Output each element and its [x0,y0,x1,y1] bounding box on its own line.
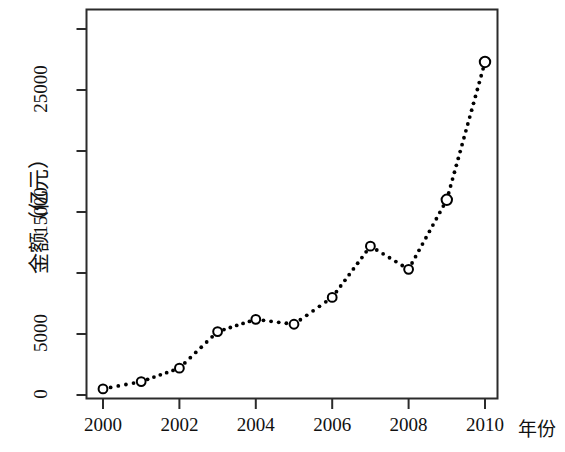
marker-circle [137,377,146,386]
marker-circle [175,364,184,373]
line-dot [305,313,309,317]
y-tick-label-15000: 15000 [30,181,52,241]
data-point-2008 [404,265,413,274]
data-point-2006 [328,293,337,302]
line-dot [428,230,432,234]
line-dot [388,256,392,260]
line-dot [347,273,351,277]
line-dot [132,381,136,385]
line-dot [400,264,404,268]
marker-circle [366,242,375,251]
data-point-2001 [137,377,146,386]
line-dot [298,318,302,322]
line-dot [199,345,203,349]
line-dot [453,170,457,174]
line-dot [165,371,169,375]
data-point-2010 [480,57,490,67]
line-dot [474,95,478,99]
marker-circle [99,385,108,394]
y-tick-label-5000: 5000 [30,303,52,363]
line-dot [109,386,113,390]
data-point-2009 [442,195,452,205]
x-tick-label-2010: 2010 [450,414,520,436]
data-point-2004 [251,315,260,324]
line-dot [472,101,476,105]
line-dot [414,255,418,259]
marker-circle [442,195,452,205]
line-dot [431,223,435,227]
marker-circle [251,315,260,324]
line-dot [116,384,120,388]
line-dot [269,319,273,323]
line-dot [477,81,481,85]
line-dot [464,129,468,133]
line-dot [417,248,421,252]
line-dot [241,322,245,326]
data-point-2000 [99,385,108,394]
line-dot [466,122,470,126]
plot-area [0,0,565,452]
line-dot [284,321,288,325]
line-dot [381,252,385,256]
line-dot [479,74,483,78]
line-dot [262,318,266,322]
line-dot [394,260,398,264]
axes-group [77,10,498,410]
line-dot [356,261,360,265]
line-dot [188,356,192,360]
line-dot [205,340,209,344]
line-dot [360,256,364,260]
line-dot [458,150,462,154]
line-dot [468,115,472,119]
line-dot [210,335,214,339]
line-dot [194,351,198,355]
marker-circle [480,57,490,67]
plot-frame [87,10,498,399]
y-tick-label-0: 0 [30,364,52,424]
line-dot [339,284,343,288]
line-dot [434,217,438,221]
line-dot [424,236,428,240]
line-dot [152,375,156,379]
line-dot [438,211,442,215]
x-tick-label-2000: 2000 [68,414,138,436]
line-dot [454,163,458,167]
line-dot [343,278,347,282]
line-dot [462,136,466,140]
marker-circle [213,327,222,336]
data-point-2005 [290,320,299,329]
line-dot [352,267,356,271]
data-point-2002 [175,364,184,373]
line-dot [235,324,239,328]
line-dot [183,361,187,365]
x-tick-label-2008: 2008 [374,414,444,436]
marker-circle [290,320,299,329]
x-axis-ticks [103,399,485,410]
y-axis-ticks [77,29,87,395]
x-tick-label-2002: 2002 [144,414,214,436]
x-axis-title: 年份 [518,414,556,441]
line-dot [277,320,281,324]
data-point-2007 [366,242,375,251]
line-dot [124,383,128,387]
line-dot [410,261,414,265]
line-dot [460,143,464,147]
line-dot [228,326,232,330]
line-dot [475,88,479,92]
line-dot [451,177,455,181]
line-dot [375,248,379,252]
line-dot [421,242,425,246]
marker-circle [404,265,413,274]
line-dot [449,184,453,188]
line-dot [324,300,328,304]
line-dot [311,309,315,313]
marker-circle [328,293,337,302]
line-dot [456,157,460,161]
data-point-2003 [213,327,222,336]
line-dot [318,304,322,308]
chart-figure: 金额（亿元） 0 5000 15000 25000 2000 2002 2004… [0,0,565,452]
line-dot [470,108,474,112]
x-tick-label-2006: 2006 [297,414,367,436]
y-tick-label-25000: 25000 [30,59,52,119]
line-dot [158,373,162,377]
